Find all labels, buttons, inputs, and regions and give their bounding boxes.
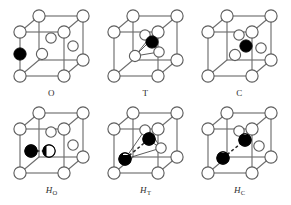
interstitial-atom xyxy=(14,48,26,60)
interstitial-sites-figure: O xyxy=(0,0,291,205)
panel-crowdion: C xyxy=(191,4,288,106)
panel-octahedral: O xyxy=(3,4,100,106)
split-interstitial-pair xyxy=(217,134,251,164)
panel-tetrahedral-split: HT xyxy=(97,101,194,203)
interstitial-atom xyxy=(146,36,158,48)
panel-crowdion-split: HC xyxy=(191,101,288,203)
split-interstitial-pair xyxy=(25,145,55,157)
panel-tetrahedral: T xyxy=(97,4,194,106)
panel-label-HC: HC xyxy=(191,185,288,198)
interstitial-atom xyxy=(240,40,252,52)
panel-label-HT: HT xyxy=(97,185,194,198)
split-interstitial-pair xyxy=(119,133,155,165)
unit-cell-diagram-O xyxy=(3,4,100,88)
panel-octahedral-split: HO xyxy=(3,101,100,203)
unit-cell-diagram-HC xyxy=(191,101,288,185)
panel-label-HO: HO xyxy=(3,185,100,198)
panel-label-O: O xyxy=(3,88,100,101)
unit-cell-diagram-HT xyxy=(97,101,194,185)
unit-cell-diagram-C xyxy=(191,4,288,88)
unit-cell-diagram-T xyxy=(97,4,194,88)
panel-label-C: C xyxy=(191,88,288,101)
panel-label-T: T xyxy=(97,88,194,101)
unit-cell-diagram-HO xyxy=(3,101,100,185)
